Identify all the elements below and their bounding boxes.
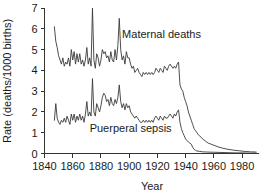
annotation-maternal-deaths: Maternal deaths	[122, 28, 201, 40]
y-tick-label: 2	[31, 106, 37, 118]
x-tick-label: 1920	[145, 160, 169, 172]
y-tick-label: 5	[31, 44, 37, 56]
annotation-puerperal-sepsis: Puerperal sepsis	[90, 122, 172, 134]
x-tick-label: 1880	[89, 160, 113, 172]
x-tick-label: 1940	[173, 160, 197, 172]
x-tick-label: 1840	[32, 160, 56, 172]
chart-container: 01234567 1840186018801900192019401960198…	[0, 0, 266, 195]
y-tick-label: 7	[31, 2, 37, 14]
y-tick-label: 1	[31, 127, 37, 139]
line-chart: 01234567 1840186018801900192019401960198…	[0, 0, 266, 195]
x-tick-label: 1860	[60, 160, 84, 172]
y-tick-label: 3	[31, 85, 37, 97]
y-tick-label: 4	[31, 64, 37, 76]
x-tick-label: 1980	[230, 160, 254, 172]
y-tick-label: 6	[31, 23, 37, 35]
y-axis-title: Rate (deaths/1000 births)	[1, 19, 13, 143]
x-axis-title: Year	[141, 180, 164, 192]
y-tick-label: 0	[31, 148, 37, 160]
x-tick-label: 1960	[202, 160, 226, 172]
x-tick-label: 1900	[117, 160, 141, 172]
